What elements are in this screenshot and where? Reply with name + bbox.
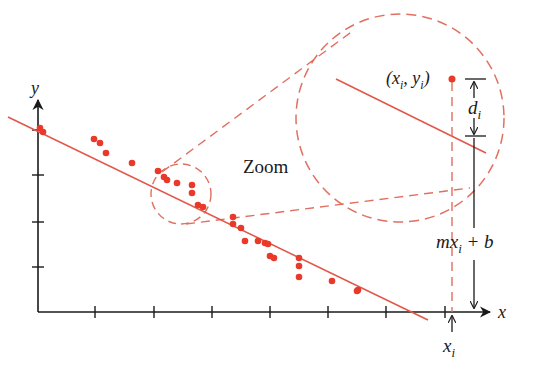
data-point [271, 255, 278, 262]
regression-line [8, 117, 428, 320]
data-point [296, 263, 303, 270]
data-point [40, 129, 47, 136]
point-coordinate-label: (xi, yi) [386, 68, 430, 92]
data-point [200, 204, 207, 211]
data-point [230, 221, 237, 228]
zoom-magnified-circle [296, 14, 504, 222]
data-point [296, 255, 303, 262]
di-label: di [468, 97, 482, 122]
data-point [255, 238, 262, 245]
data-point [189, 182, 196, 189]
data-point [164, 177, 171, 184]
data-point [329, 278, 336, 285]
data-point [242, 238, 249, 245]
data-point [354, 288, 361, 295]
zoom-label: Zoom [243, 156, 289, 177]
data-point [91, 136, 98, 143]
magnified-regression-line [336, 79, 486, 153]
regression-diagram: x y di mxi + b xi (xi, yi) Zoom [0, 0, 536, 376]
data-point [97, 140, 104, 147]
data-point [238, 225, 245, 232]
data-point [129, 160, 136, 167]
highlight-point [449, 76, 456, 83]
x-axis-label: x [497, 302, 506, 322]
data-point [174, 180, 181, 187]
y-axis-label: y [29, 78, 39, 98]
data-point [189, 190, 196, 197]
data-point [230, 214, 237, 221]
axes: x y [29, 78, 506, 322]
xi-label: xi [442, 335, 455, 360]
data-point [155, 168, 162, 175]
mxb-label: mxi + b [436, 231, 494, 256]
data-point [265, 241, 272, 248]
data-point [296, 274, 303, 281]
data-point [103, 150, 110, 157]
zoom-connector-lines [162, 30, 470, 224]
